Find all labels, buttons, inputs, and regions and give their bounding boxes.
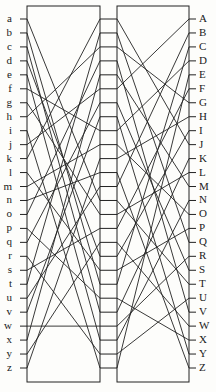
right-stage-wire xyxy=(117,75,189,187)
left-label-q: q xyxy=(0,236,12,247)
right-label-V: V xyxy=(199,306,207,317)
left-label-r: r xyxy=(0,250,12,261)
left-label-b: b xyxy=(0,27,12,38)
right-label-T: T xyxy=(199,278,206,289)
right-label-I: I xyxy=(199,125,203,136)
right-stage-wire xyxy=(117,242,189,326)
right-label-Z: Z xyxy=(199,362,206,373)
right-label-W: W xyxy=(199,320,209,331)
left-label-w: w xyxy=(0,320,12,331)
left-stage-wire xyxy=(27,187,100,299)
right-stage-wire xyxy=(117,256,189,326)
right-label-G: G xyxy=(199,97,207,108)
left-label-v: v xyxy=(0,306,12,317)
right-label-M: M xyxy=(199,181,209,192)
left-label-g: g xyxy=(0,97,12,108)
left-label-c: c xyxy=(0,41,12,52)
right-label-A: A xyxy=(199,13,207,24)
right-label-L: L xyxy=(199,167,206,178)
left-label-j: j xyxy=(0,139,12,150)
right-label-K: K xyxy=(199,153,207,164)
right-stage-wires xyxy=(117,19,189,368)
left-stage-wire xyxy=(27,89,100,145)
left-stage-wire xyxy=(27,47,100,312)
left-label-e: e xyxy=(0,69,12,80)
right-label-X: X xyxy=(199,334,207,345)
left-label-f: f xyxy=(0,83,12,94)
left-label-i: i xyxy=(0,125,12,136)
right-label-Q: Q xyxy=(199,236,207,247)
left-label-u: u xyxy=(0,292,12,303)
right-stage-wire xyxy=(117,19,189,89)
diagram-canvas: abcdefghijklmnopqrstuvwxyz ABCDEFGHIJKLM… xyxy=(0,0,216,392)
right-label-F: F xyxy=(199,83,205,94)
right-label-Y: Y xyxy=(199,348,207,359)
left-label-p: p xyxy=(0,222,12,233)
right-label-P: P xyxy=(199,222,205,233)
left-label-o: o xyxy=(0,208,12,219)
left-label-n: n xyxy=(0,194,12,205)
left-stage-wires xyxy=(27,19,100,368)
right-label-S: S xyxy=(199,264,205,275)
left-label-t: t xyxy=(0,278,12,289)
left-label-m: m xyxy=(0,181,12,192)
left-label-d: d xyxy=(0,55,12,66)
right-label-H: H xyxy=(199,111,207,122)
left-label-x: x xyxy=(0,334,12,345)
right-label-J: J xyxy=(199,139,203,150)
right-stage-wire xyxy=(117,131,189,257)
left-stage-wire xyxy=(27,47,100,117)
right-label-C: C xyxy=(199,41,206,52)
left-label-y: y xyxy=(0,348,12,359)
left-label-a: a xyxy=(0,13,12,24)
right-label-E: E xyxy=(199,69,206,80)
left-label-s: s xyxy=(0,264,12,275)
middle-connectors xyxy=(100,19,117,368)
left-stage-wire xyxy=(27,159,100,368)
right-label-B: B xyxy=(199,27,206,38)
left-stage-wire xyxy=(27,117,100,312)
left-label-z: z xyxy=(0,362,12,373)
right-label-O: O xyxy=(199,208,207,219)
right-label-U: U xyxy=(199,292,207,303)
left-scrambler-box xyxy=(27,6,100,382)
left-label-k: k xyxy=(0,153,12,164)
right-label-D: D xyxy=(199,55,207,66)
right-stage-wire xyxy=(117,103,189,271)
right-stage-wire xyxy=(117,200,189,284)
right-stage-wire xyxy=(117,145,189,215)
right-stage-wire xyxy=(117,117,189,159)
right-stage-wire xyxy=(117,298,189,354)
right-stage-wire xyxy=(117,159,189,313)
left-label-h: h xyxy=(0,111,12,122)
right-label-N: N xyxy=(199,194,207,205)
right-label-R: R xyxy=(199,250,206,261)
left-label-l: l xyxy=(0,167,12,178)
wiring-svg xyxy=(0,0,216,392)
